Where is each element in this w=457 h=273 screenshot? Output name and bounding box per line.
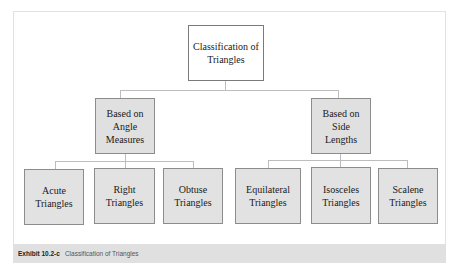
leaf-node-label: Scalene Triangles xyxy=(389,183,426,209)
leaf-node-right: Right Triangles xyxy=(94,168,155,224)
branch-node-label: Based on Side Lengths xyxy=(323,107,360,146)
branch-node-side-lengths: Based on Side Lengths xyxy=(311,98,371,154)
exhibit-title: Classification of Triangles xyxy=(65,250,139,257)
connector-to-equilateral xyxy=(268,160,269,168)
connector-to-scalene xyxy=(407,160,408,168)
root-node: Classification of Triangles xyxy=(188,25,264,81)
leaf-node-obtuse: Obtuse Triangles xyxy=(163,168,223,224)
leaf-node-isosceles: Isosceles Triangles xyxy=(311,167,371,224)
leaf-node-scalene: Scalene Triangles xyxy=(378,168,438,224)
leaf-node-equilateral: Equilateral Triangles xyxy=(235,168,301,224)
leaf-node-label: Isosceles Triangles xyxy=(322,183,359,209)
connector-root-horizontal xyxy=(120,90,339,91)
connector-to-acute xyxy=(55,161,56,169)
connector-side-horizontal xyxy=(268,160,408,161)
leaf-node-acute: Acute Triangles xyxy=(24,169,84,225)
connector-to-angle xyxy=(120,90,121,98)
exhibit-number: Exhibit 10.2-c xyxy=(18,250,60,257)
connector-to-side xyxy=(338,90,339,98)
branch-node-angle-measures: Based on Angle Measures xyxy=(95,98,155,154)
leaf-node-label: Right Triangles xyxy=(106,183,143,209)
leaf-node-label: Equilateral Triangles xyxy=(246,183,290,209)
exhibit-caption: Exhibit 10.2-c Classification of Triangl… xyxy=(13,244,446,263)
root-node-label: Classification of Triangles xyxy=(193,40,259,66)
leaf-node-label: Obtuse Triangles xyxy=(174,183,211,209)
leaf-node-label: Acute Triangles xyxy=(35,184,72,210)
branch-node-label: Based on Angle Measures xyxy=(106,107,144,146)
